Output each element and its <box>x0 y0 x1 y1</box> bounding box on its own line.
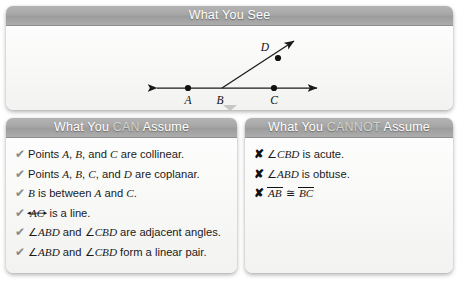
what-you-see-panel: What You See A B C D <box>6 6 453 110</box>
math-variable: CBD <box>95 246 117 258</box>
cannot-title-prefix: What You <box>268 120 327 134</box>
list-item: ✔AC is a line. <box>15 206 237 220</box>
can-title-highlight: CAN <box>113 120 140 134</box>
point-C-label: C <box>270 94 278 106</box>
check-icon: ✔ <box>15 245 28 259</box>
list-item-text: ∠ABD is obtuse. <box>267 168 350 181</box>
what-you-cannot-assume-header: What You CANNOT Assume <box>245 118 453 138</box>
list-item: ✔∠ABD and ∠CBD are adjacent angles. <box>15 225 237 239</box>
math-variable: C <box>110 148 117 160</box>
item-text: is between <box>35 187 95 199</box>
angle-symbol-icon: ∠ <box>267 148 277 160</box>
list-item: ✔Points A, B, C, and D are coplanar. <box>15 167 237 181</box>
item-text: are collinear. <box>118 148 185 160</box>
segment-notation: AB <box>267 187 283 200</box>
list-item-text: AB ≅ BC <box>267 187 314 200</box>
list-item-text: B is between A and C. <box>28 187 137 199</box>
item-text: Points <box>28 148 62 160</box>
item-text: Points <box>28 168 62 180</box>
what-you-can-assume-header: What You CAN Assume <box>6 118 237 138</box>
line-notation: AC <box>28 208 46 220</box>
math-variable: C <box>88 168 95 180</box>
item-text: , and <box>96 168 124 180</box>
math-variable: CBD <box>95 226 117 238</box>
list-item: ✔∠ABD and ∠CBD form a linear pair. <box>15 245 237 259</box>
math-variable: ABD <box>38 226 60 238</box>
list-item-text: Points A, B, and C are collinear. <box>28 148 184 160</box>
list-item-text: ∠ABD and ∠CBD form a linear pair. <box>28 246 207 259</box>
item-text: is a line. <box>46 207 90 219</box>
item-text: form a linear pair. <box>117 246 207 258</box>
list-item-text: ∠CBD is acute. <box>267 148 344 161</box>
list-item: ✘∠CBD is acute. <box>254 147 453 161</box>
cross-icon: ✘ <box>254 147 267 161</box>
item-text: ≅ <box>283 187 298 199</box>
what-you-see-title: What You See <box>189 8 271 22</box>
what-you-can-assume-panel: What You CAN Assume ✔Points A, B, and C … <box>6 118 237 273</box>
check-icon: ✔ <box>15 167 28 181</box>
angle-symbol-icon: ∠ <box>85 226 95 238</box>
item-text: and <box>101 187 126 199</box>
cannot-assume-list: ✘∠CBD is acute.✘∠ABD is obtuse.✘AB ≅ BC <box>245 138 453 200</box>
panel-connector-arrow <box>223 105 237 110</box>
what-you-see-header: What You See <box>6 6 453 26</box>
item-text: . <box>134 187 137 199</box>
angle-symbol-icon: ∠ <box>267 168 277 180</box>
can-title-prefix: What You <box>54 120 113 134</box>
can-assume-list: ✔Points A, B, and C are collinear.✔Point… <box>6 138 237 259</box>
math-variable: C <box>126 187 133 199</box>
what-you-cannot-assume-panel: What You CANNOT Assume ✘∠CBD is acute.✘∠… <box>245 118 453 273</box>
angle-symbol-icon: ∠ <box>28 246 38 258</box>
cross-icon: ✘ <box>254 186 267 200</box>
item-text: , and <box>82 148 110 160</box>
item-text: and <box>60 226 85 238</box>
can-assume-body: ✔Points A, B, and C are collinear.✔Point… <box>6 138 237 273</box>
list-item: ✔Points A, B, and C are collinear. <box>15 147 237 161</box>
cannot-title-suffix: Assume <box>381 120 430 134</box>
ray-BD <box>222 41 294 88</box>
point-D-dot <box>275 55 281 61</box>
list-item: ✘∠ABD is obtuse. <box>254 167 453 181</box>
can-title-suffix: Assume <box>140 120 189 134</box>
check-icon: ✔ <box>15 147 28 161</box>
point-D-label: D <box>260 41 270 53</box>
math-variable: CBD <box>277 148 299 160</box>
cannot-assume-body: ✘∠CBD is acute.✘∠ABD is obtuse.✘AB ≅ BC <box>245 138 453 273</box>
math-variable: B <box>28 187 35 199</box>
item-text: is acute. <box>299 148 344 160</box>
point-A-dot <box>185 85 191 91</box>
item-text: are adjacent angles. <box>117 226 221 238</box>
what-you-see-body: A B C D <box>6 26 453 110</box>
geometry-diagram: A B C D <box>6 26 453 110</box>
math-variable: ABD <box>277 168 299 180</box>
point-A-label: A <box>183 94 192 106</box>
cannot-title-highlight: CANNOT <box>327 120 381 134</box>
item-text: are coplanar. <box>132 168 200 180</box>
angle-symbol-icon: ∠ <box>85 246 95 258</box>
list-item-text: AC is a line. <box>28 207 90 220</box>
point-C-dot <box>271 85 277 91</box>
list-item: ✘AB ≅ BC <box>254 186 453 200</box>
check-icon: ✔ <box>15 186 28 200</box>
math-variable: D <box>124 168 132 180</box>
math-variable: ABD <box>38 246 60 258</box>
segment-notation: BC <box>298 187 314 200</box>
list-item-text: ∠ABD and ∠CBD are adjacent angles. <box>28 226 221 239</box>
double-arrow-overbar-icon <box>27 207 47 213</box>
list-item-text: Points A, B, C, and D are coplanar. <box>28 168 200 180</box>
angle-symbol-icon: ∠ <box>28 226 38 238</box>
check-icon: ✔ <box>15 225 28 239</box>
cross-icon: ✘ <box>254 167 267 181</box>
item-text: is obtuse. <box>299 168 350 180</box>
item-text: and <box>60 246 85 258</box>
list-item: ✔B is between A and C. <box>15 186 237 200</box>
